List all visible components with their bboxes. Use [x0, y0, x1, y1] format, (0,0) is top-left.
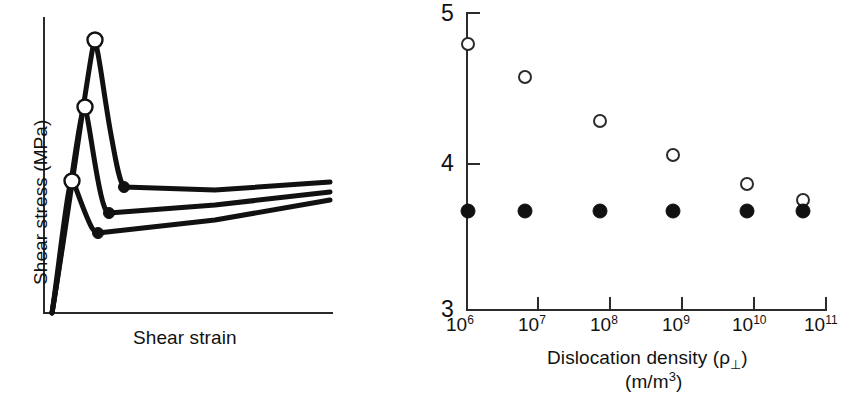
- data-point-filled-4: [666, 204, 680, 218]
- data-point-open-4: [667, 149, 679, 161]
- xtick-exp-1e11: 11: [825, 313, 837, 327]
- panel-shear-stress-dislocation-density: 5 4 3 106 107 108 109 1010 1011 Shear st…: [425, 0, 850, 400]
- xtick-exp-1e8: 8: [611, 313, 618, 327]
- xtick-label-1e11: 1011: [804, 314, 838, 336]
- right-axes: [467, 13, 826, 310]
- xtick-base-1e9: 10: [662, 314, 683, 335]
- left-axes: [44, 18, 332, 313]
- left-x-axis-title: Shear strain: [133, 327, 237, 349]
- marker-upper-yield-curve-middle: [78, 100, 93, 115]
- data-point-filled-5: [740, 204, 754, 218]
- rho-symbol: ρ: [719, 347, 730, 368]
- data-point-open-5: [741, 178, 753, 190]
- units-post: ): [676, 371, 682, 392]
- data-point-filled-1: [461, 204, 475, 218]
- xtick-exp-1e10: 10: [753, 313, 766, 327]
- xtick-label-1e9: 109: [662, 314, 690, 336]
- data-point-filled-2: [518, 204, 532, 218]
- xtick-label-1e8: 108: [590, 314, 618, 336]
- data-point-filled-3: [593, 204, 607, 218]
- figure-root: Shear stress (MPa) Shear strain: [0, 0, 850, 400]
- marker-lower-yield-curve-lower: [93, 228, 104, 239]
- xtick-base-1e11: 10: [804, 314, 825, 335]
- right-x-axis-title-line1: Dislocation density (ρ⊥): [547, 347, 748, 369]
- data-point-open-1: [462, 38, 474, 50]
- ytick-label-5: 5: [441, 0, 454, 27]
- xtick-exp-1e9: 9: [683, 313, 690, 327]
- xtick-label-1e10: 1010: [732, 314, 767, 336]
- panel-shear-stress-strain: Shear stress (MPa) Shear strain: [0, 0, 425, 400]
- curve-upper: [52, 41, 330, 313]
- right-x-axis-title-pre: Dislocation density (: [547, 347, 719, 368]
- data-point-open-3: [594, 115, 606, 127]
- xtick-base-1e7: 10: [518, 314, 539, 335]
- xtick-label-1e6: 106: [446, 314, 474, 336]
- units-pre: (m/m: [625, 371, 669, 392]
- units-exponent: 3: [669, 369, 676, 384]
- data-point-open-2: [519, 71, 531, 83]
- xtick-exp-1e6: 6: [467, 313, 474, 327]
- xtick-exp-1e7: 7: [539, 313, 546, 327]
- marker-lower-yield-curve-upper: [119, 182, 130, 193]
- xtick-base-1e10: 10: [732, 314, 753, 335]
- right-x-axis-title-post: ): [741, 347, 747, 368]
- right-plot-canvas: [425, 0, 850, 400]
- xtick-base-1e8: 10: [590, 314, 611, 335]
- marker-upper-yield-curve-upper: [88, 33, 103, 48]
- marker-lower-yield-curve-middle: [104, 208, 115, 219]
- data-point-filled-6: [796, 204, 810, 218]
- ytick-label-4: 4: [441, 150, 454, 177]
- xtick-base-1e6: 10: [446, 314, 467, 335]
- left-y-axis-title: Shear stress (MPa): [30, 120, 52, 285]
- marker-upper-yield-curve-lower: [65, 174, 80, 189]
- xtick-label-1e7: 107: [518, 314, 546, 336]
- curve-middle: [52, 107, 330, 313]
- curve-lower: [52, 181, 330, 313]
- perpendicular-symbol: ⊥: [730, 357, 741, 372]
- right-x-axis-title-line2: (m/m3): [625, 371, 682, 393]
